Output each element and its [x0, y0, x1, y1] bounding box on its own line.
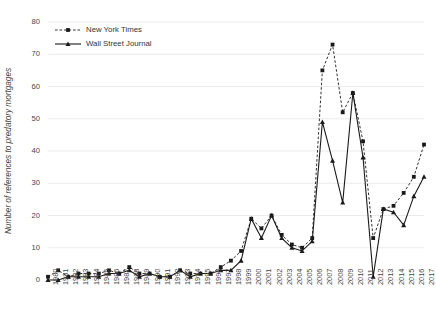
y-axis-tick-label: 30 [14, 178, 40, 187]
x-axis-tick-label: 2012 [376, 269, 385, 285]
data-point-marker [330, 158, 335, 163]
x-axis-tick-label: 1982 [71, 269, 80, 285]
data-point-marker [422, 143, 426, 147]
x-axis-tick-label: 1994 [193, 269, 202, 285]
x-axis-tick-label: 2015 [407, 269, 416, 285]
y-axis-tick-label: 20 [14, 211, 40, 220]
x-axis-tick-label: 1987 [122, 269, 131, 285]
data-point-marker [260, 227, 264, 231]
x-axis-tick-label: 2016 [417, 269, 426, 285]
y-axis-tick-label: 40 [14, 146, 40, 155]
x-axis-tick-label: 1983 [81, 269, 90, 285]
legend-item-label: Wall Street Journal [86, 39, 152, 48]
y-axis-tick-label: 10 [14, 243, 40, 252]
x-axis-tick-label: 2014 [397, 269, 406, 285]
x-axis-tick-label: 2013 [386, 269, 395, 285]
x-axis-tick-label: 2004 [295, 269, 304, 285]
y-axis-tick-label: 60 [14, 82, 40, 91]
data-point-marker [361, 139, 365, 143]
x-axis-tick-label: 1985 [102, 269, 111, 285]
data-point-marker [341, 110, 345, 114]
x-axis-tick-label: 2001 [264, 269, 273, 285]
x-axis-tick-label: 1986 [112, 269, 121, 285]
chart-series [46, 43, 426, 279]
x-axis-tick-label: 1992 [173, 269, 182, 285]
x-axis-tick-label: 2006 [315, 269, 324, 285]
x-axis-tick-label: 1991 [163, 269, 172, 285]
series-layer [46, 43, 427, 282]
x-axis-tick-label: 2002 [275, 269, 284, 285]
x-axis-tick-label: 1990 [153, 269, 162, 285]
data-point-marker [402, 191, 406, 195]
x-axis-tick-label: 2000 [254, 269, 263, 285]
y-axis-tick-label: 50 [14, 114, 40, 123]
x-axis-tick-label: 1996 [214, 269, 223, 285]
x-axis-tick-label: 2011 [366, 269, 375, 285]
data-point-marker [331, 43, 335, 47]
data-point-marker [320, 68, 324, 72]
data-point-marker [239, 249, 243, 253]
data-point-marker [371, 236, 375, 240]
data-point-marker [229, 259, 233, 263]
x-axis-tick-label: 2007 [325, 269, 334, 285]
data-point-marker [320, 119, 325, 124]
x-axis-tick-label: 1995 [203, 269, 212, 285]
x-axis-tick-label: 1980 [51, 269, 60, 285]
gridlines [48, 22, 424, 280]
x-axis-tick-label: 2010 [356, 269, 365, 285]
x-axis-tick-label: 2017 [427, 269, 436, 285]
data-point-marker [340, 200, 345, 205]
x-axis-tick-label: 1981 [61, 269, 70, 285]
data-point-marker [66, 28, 70, 32]
data-point-marker [411, 194, 416, 199]
x-axis-tick-label: 2008 [336, 269, 345, 285]
x-axis-tick-label: 2009 [346, 269, 355, 285]
x-axis-tick-label: 1989 [142, 269, 151, 285]
y-axis-tick-label: 80 [14, 17, 40, 26]
x-axis-tick-label: 1984 [92, 269, 101, 285]
x-axis-tick-label: 1999 [244, 269, 253, 285]
series-line [48, 93, 424, 280]
x-axis-tick-label: 1998 [234, 269, 243, 285]
legend-item-label: New York Times [86, 25, 142, 34]
x-axis-tick-label: 2003 [285, 269, 294, 285]
data-point-marker [412, 175, 416, 179]
x-axis-tick-label: 2005 [305, 269, 314, 285]
data-point-marker [239, 258, 244, 263]
x-axis-tick-label: 1993 [183, 269, 192, 285]
series-line [48, 45, 424, 277]
y-axis-tick-label: 70 [14, 49, 40, 58]
x-axis-tick-label: 1988 [132, 269, 141, 285]
y-axis-tick-label: 0 [14, 275, 40, 284]
data-point-marker [259, 235, 264, 240]
x-axis-tick-label: 1997 [224, 269, 233, 285]
data-point-marker [392, 204, 396, 208]
data-point-marker [422, 174, 427, 179]
legend-marks [55, 28, 81, 46]
